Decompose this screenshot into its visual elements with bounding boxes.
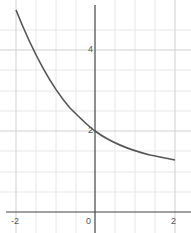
y-tick-4: 4 (88, 44, 93, 54)
x-tick-0: 0 (86, 216, 91, 226)
x-tick-2: 2 (171, 216, 176, 226)
y-tick-2: 2 (88, 125, 93, 135)
function-plot: -2 0 2 2 4 (0, 0, 191, 233)
x-tick-neg2: -2 (11, 216, 19, 226)
